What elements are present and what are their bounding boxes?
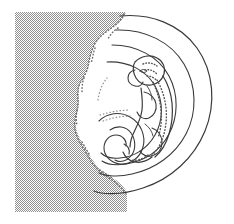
embryo-spiral-figure [0,0,234,224]
illustration-canvas: Embryo curled within concentric spiral m… [0,0,234,224]
